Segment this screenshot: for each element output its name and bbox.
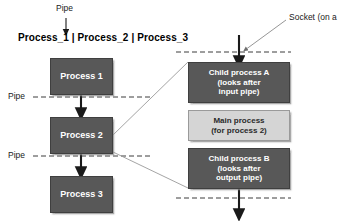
box-child-process-b: Child process B (looks after output pipe… xyxy=(188,148,290,189)
pipe-left-label-1: Pipe xyxy=(8,91,25,102)
box-process-1: Process 1 xyxy=(50,58,113,95)
socket-callout-line-1: Socket xyxy=(289,12,315,22)
socket-callout-leader xyxy=(245,20,286,50)
box-process-2: Process 2 xyxy=(50,117,113,154)
socket-callout: Socket (on a remote computer) xyxy=(289,12,338,23)
box-main-process-line-1: Main process xyxy=(213,116,264,125)
box-child-process-b-line-1: Child process B xyxy=(209,154,270,163)
box-child-process-a-line-1: Child process A xyxy=(209,68,270,77)
box-child-process-a-line-3: input pipe) xyxy=(219,87,260,96)
box-child-process-a: Child process A (looks after input pipe) xyxy=(188,62,290,103)
connector-p2-to-child-b xyxy=(113,152,188,188)
pipe-top-label: Pipe xyxy=(56,3,73,14)
pipes-and-sockets-diagram: Pipe Process_1 | Process_2 | Process_3 P… xyxy=(0,0,338,221)
command-line-text: Process_1 | Process_2 | Process_3 xyxy=(18,32,188,43)
box-child-process-b-line-3: output pipe) xyxy=(216,173,262,182)
box-child-process-a-line-2: (looks after xyxy=(217,78,260,87)
pipe-left-label-2: Pipe xyxy=(8,150,25,161)
box-main-process-line-2: (for process 2) xyxy=(211,126,267,135)
box-process-3-label: Process 3 xyxy=(60,189,103,200)
box-child-process-b-line-2: (looks after xyxy=(217,164,260,173)
box-process-1-label: Process 1 xyxy=(60,71,103,82)
connector-p2-to-child-a xyxy=(113,62,188,135)
socket-callout-line-2: (on a remote xyxy=(317,12,338,22)
box-main-process: Main process (for process 2) xyxy=(188,110,290,141)
box-process-2-label: Process 2 xyxy=(60,130,103,141)
box-process-3: Process 3 xyxy=(50,176,113,213)
